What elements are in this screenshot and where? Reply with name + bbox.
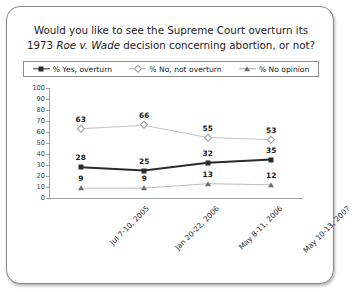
y-axis-tick-mark [46, 121, 49, 122]
data-point-triangle [205, 181, 211, 186]
y-axis-tick-mark [46, 132, 49, 133]
y-axis-tick-mark [46, 110, 49, 111]
data-point-label: 13 [203, 170, 213, 179]
series-line-triangle [81, 184, 272, 188]
y-axis-tick-mark [46, 154, 49, 155]
data-point-label: 32 [203, 149, 213, 158]
y-axis-tick-label: 20 [21, 172, 45, 180]
data-point-square [142, 168, 147, 173]
y-axis-tick-mark [46, 187, 49, 188]
y-axis-tick-label: 60 [21, 128, 45, 136]
chart-lines-svg [7, 7, 335, 285]
x-axis-line [49, 198, 303, 199]
y-axis-tick-mark [46, 198, 49, 199]
y-axis-tick-mark [46, 143, 49, 144]
data-point-label: 28 [76, 153, 86, 162]
data-point-square [205, 160, 210, 165]
data-point-label: 63 [76, 115, 86, 124]
data-point-label: 9 [142, 174, 147, 183]
data-point-square [269, 157, 274, 162]
data-point-square [78, 165, 83, 170]
data-point-label: 55 [203, 124, 213, 133]
y-axis-tick-label: 30 [21, 161, 45, 169]
data-point-label: 53 [266, 126, 276, 135]
y-axis-tick-label: 90 [21, 95, 45, 103]
data-point-label: 35 [266, 146, 276, 155]
y-axis-tick-mark [46, 88, 49, 89]
y-axis-tick-mark [46, 176, 49, 177]
data-point-label: 66 [139, 111, 149, 120]
y-axis-tick-label: 70 [21, 117, 45, 125]
y-axis-tick-mark [46, 99, 49, 100]
data-point-triangle [141, 185, 147, 190]
series-line-diamond [81, 125, 272, 139]
data-point-label: 25 [139, 157, 149, 166]
y-axis-tick-label: 10 [21, 183, 45, 191]
chart-plot-area: 0102030405060708090100282532356366555399… [7, 7, 335, 285]
y-axis-tick-mark [46, 165, 49, 166]
data-point-triangle [268, 182, 274, 187]
y-axis-tick-label: 40 [21, 150, 45, 158]
y-axis-line [49, 88, 50, 198]
data-point-label: 9 [78, 174, 83, 183]
data-point-label: 12 [266, 171, 276, 180]
y-axis-tick-label: 0 [21, 194, 45, 202]
chart-card: Would you like to see the Supreme Court … [6, 6, 334, 284]
y-axis-tick-label: 50 [21, 139, 45, 147]
y-axis-tick-label: 100 [21, 84, 45, 92]
y-axis-tick-label: 80 [21, 106, 45, 114]
series-line-square [81, 160, 272, 171]
data-point-triangle [78, 185, 84, 190]
